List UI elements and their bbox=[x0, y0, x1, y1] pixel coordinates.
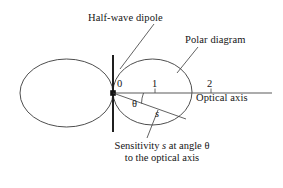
caption-sensitivity: Sensitivity s at angle θ to the optical … bbox=[114, 140, 210, 165]
caption-line2-pre: angle bbox=[179, 140, 204, 151]
label-optical-axis: Optical axis bbox=[196, 92, 248, 104]
theta-angle-arc bbox=[142, 93, 144, 104]
caption-line1-pre: Sensitivity bbox=[115, 140, 163, 151]
label-theta-symbol: θ bbox=[132, 98, 137, 110]
leader-line-half-wave-dipole bbox=[120, 24, 154, 69]
label-sensitivity-symbol: s bbox=[155, 108, 159, 120]
caption-line3: optical axis bbox=[151, 152, 199, 163]
axis-tick-label-2: 2 bbox=[207, 78, 212, 90]
backward-lobe-curve bbox=[20, 59, 113, 127]
caption-line1-post: at bbox=[166, 140, 176, 151]
axis-tick-label-0: 0 bbox=[117, 78, 122, 90]
caption-line2-italic: θ bbox=[204, 140, 209, 151]
leader-line-polar-diagram bbox=[177, 47, 198, 73]
figure-canvas: Half-wave dipole Polar diagram Optical a… bbox=[0, 0, 283, 188]
axis-tick-label-1: 1 bbox=[152, 78, 157, 90]
caption-line2-post: to the bbox=[125, 152, 149, 163]
label-half-wave-dipole: Half-wave dipole bbox=[88, 12, 163, 24]
label-polar-diagram: Polar diagram bbox=[185, 34, 246, 46]
